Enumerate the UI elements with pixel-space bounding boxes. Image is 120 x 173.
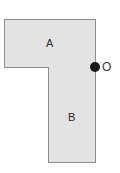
point-o-marker-icon (90, 62, 100, 72)
shared-boundary-seam (49, 66, 95, 69)
point-o-label: O (102, 61, 111, 73)
geometry-figure: A B O (0, 0, 120, 173)
region-a-label: A (46, 38, 53, 49)
region-b-label: B (68, 112, 75, 123)
